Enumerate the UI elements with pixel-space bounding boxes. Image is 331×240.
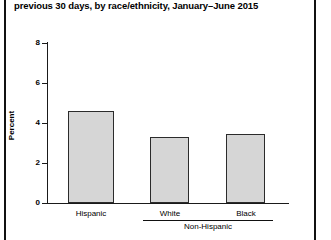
bar-hispanic [68,111,114,203]
x-tick-label-white: White [140,209,200,218]
y-tick-label-8-wrap: 8 [12,39,40,47]
y-axis-line [47,42,48,204]
y-tick-label-0-wrap: 0 [12,199,40,207]
y-tick-label-6-wrap: 6 [12,79,40,87]
y-tick-label-2: 2 [16,159,40,167]
y-tick-mark-2 [42,163,47,164]
y-tick-mark-8 [42,43,47,44]
group-label-non-hispanic: Non-Hispanic [148,222,268,231]
y-tick-label-0: 0 [16,199,40,207]
bar-white [150,137,189,203]
y-tick-label-8: 8 [16,39,40,47]
group-bracket-rule [143,220,273,221]
y-tick-label-4-wrap: 4 [12,119,40,127]
y-tick-label-4: 4 [16,119,40,127]
x-tick-label-hispanic: Hispanic [61,209,121,218]
bar-black [226,134,265,203]
y-tick-mark-6 [42,83,47,84]
y-tick-mark-0 [42,203,47,204]
y-tick-label-6: 6 [16,79,40,87]
plot-area: Percent 8 6 4 2 0 Hispanic White Black [0,0,331,240]
y-tick-mark-4 [42,123,47,124]
y-tick-label-2-wrap: 2 [12,159,40,167]
figure-panel: previous 30 days, by race/ethnicity, Jan… [0,0,331,240]
x-tick-label-black: Black [216,209,276,218]
